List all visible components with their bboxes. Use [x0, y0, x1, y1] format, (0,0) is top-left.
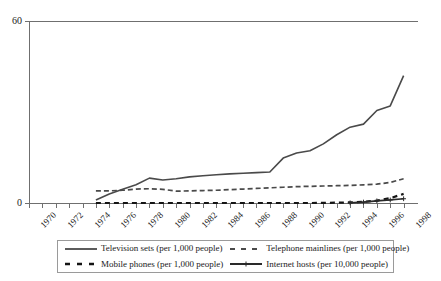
chart-legend: Television sets (per 1,000 people)Teleph… [57, 240, 394, 273]
y-axis-label: 60 [0, 15, 22, 26]
x-axis-label: 1990 [306, 210, 326, 230]
series-line [96, 179, 404, 191]
x-axis-tick [310, 204, 311, 208]
x-axis-label: 1986 [252, 210, 272, 230]
legend-item[interactable]: Telephone mainlines (per 1,000 people) [223, 244, 409, 254]
x-axis-tick [230, 204, 231, 208]
x-axis-tick [216, 204, 217, 208]
x-axis-tick [377, 204, 378, 208]
solid-marker-swatch [229, 259, 263, 269]
x-axis-label: 1982 [199, 210, 219, 230]
x-axis-tick [149, 204, 150, 208]
x-axis-label: 1988 [279, 210, 299, 230]
x-axis-label: 1972 [65, 210, 85, 230]
x-axis-tick [337, 204, 338, 208]
x-axis-tick [390, 204, 391, 208]
x-axis-tick [363, 204, 364, 208]
x-axis-tick [404, 204, 405, 208]
x-axis-label: 1996 [386, 210, 406, 230]
x-axis-tick [297, 204, 298, 208]
x-axis-tick [163, 204, 164, 208]
x-axis-tick [243, 204, 244, 208]
x-axis-label: 1978 [145, 210, 165, 230]
x-axis-tick [123, 204, 124, 208]
x-axis-label: 1998 [413, 210, 433, 230]
x-axis-tick [83, 204, 84, 208]
x-axis-tick [323, 204, 324, 208]
legend-item[interactable]: Television sets (per 1,000 people) [58, 244, 223, 254]
x-axis-tick [190, 204, 191, 208]
y-axis-label: 0 [0, 197, 22, 208]
legend-item[interactable]: Internet hosts (per 10,000 people) [223, 259, 409, 269]
x-axis-tick [42, 204, 43, 208]
series-marker [348, 200, 353, 205]
x-axis-label: 1984 [226, 210, 246, 230]
x-axis-tick [283, 204, 284, 208]
chart-figure: 060 197019721974197619781980198219841986… [0, 0, 441, 281]
x-axis-label: 1970 [38, 210, 58, 230]
dashed-line-swatch [229, 244, 263, 254]
x-axis-tick [29, 204, 30, 208]
dashed-heavy-swatch [64, 259, 98, 269]
legend-item[interactable]: Mobile phones (per 1,000 people) [58, 259, 223, 269]
x-axis-tick [69, 204, 70, 208]
data-series-layer [29, 21, 417, 203]
x-axis-tick [270, 204, 271, 208]
series-line [96, 76, 404, 200]
x-axis-tick [203, 204, 204, 208]
x-axis-label: 1992 [333, 210, 353, 230]
x-axis-label: 1974 [92, 210, 112, 230]
x-axis-tick [136, 204, 137, 208]
legend-label: Television sets (per 1,000 people) [101, 244, 223, 253]
x-axis-tick [56, 204, 57, 208]
x-axis-tick [256, 204, 257, 208]
legend-label: Internet hosts (per 10,000 people) [266, 260, 388, 269]
x-axis-tick [109, 204, 110, 208]
legend-label: Telephone mainlines (per 1,000 people) [266, 244, 409, 253]
x-axis-label: 1976 [119, 210, 139, 230]
x-axis-tick [96, 204, 97, 208]
x-axis-label: 1994 [359, 210, 379, 230]
x-axis-tick [176, 204, 177, 208]
legend-label: Mobile phones (per 1,000 people) [101, 260, 223, 269]
series-marker [401, 196, 406, 201]
solid-line-swatch [64, 244, 98, 254]
x-axis-label: 1980 [172, 210, 192, 230]
